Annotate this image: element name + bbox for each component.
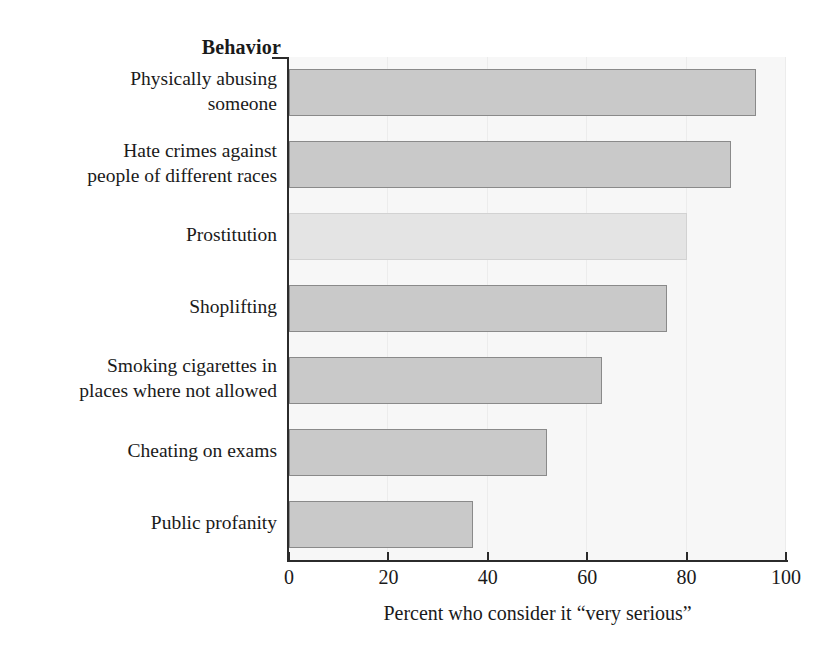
x-tick-60 xyxy=(586,552,588,562)
x-tick-label-40: 40 xyxy=(448,566,528,589)
category-label-line: Smoking cigarettes in xyxy=(0,353,277,378)
bar-chart-figure: Behavior Physically abusingsomeoneHate c… xyxy=(0,0,839,652)
x-tick-80 xyxy=(686,552,688,562)
bar-4 xyxy=(289,357,602,404)
category-label-line: Cheating on exams xyxy=(0,438,277,463)
bar-0 xyxy=(289,69,756,116)
category-axis-header: Behavior xyxy=(0,36,281,59)
bar-6 xyxy=(289,501,473,548)
category-label-line: Shoplifting xyxy=(0,294,277,319)
category-label-line: Prostitution xyxy=(0,222,277,247)
category-label-6: Public profanity xyxy=(0,510,277,535)
bar-2 xyxy=(289,213,687,260)
category-label-line: Public profanity xyxy=(0,510,277,535)
x-axis-line xyxy=(287,560,788,562)
category-label-1: Hate crimes againstpeople of different r… xyxy=(0,138,277,188)
x-tick-0 xyxy=(288,552,290,562)
category-label-3: Shoplifting xyxy=(0,294,277,319)
bar-1 xyxy=(289,141,731,188)
x-axis-title: Percent who consider it “very serious” xyxy=(289,602,786,625)
x-tick-100 xyxy=(785,552,787,562)
bar-3 xyxy=(289,285,667,332)
x-tick-label-100: 100 xyxy=(746,566,826,589)
x-tick-label-60: 60 xyxy=(547,566,627,589)
category-label-5: Cheating on exams xyxy=(0,438,277,463)
category-label-line: Hate crimes against xyxy=(0,138,277,163)
gridline xyxy=(785,57,786,560)
x-tick-label-20: 20 xyxy=(348,566,428,589)
x-tick-20 xyxy=(387,552,389,562)
category-label-2: Prostitution xyxy=(0,222,277,247)
x-tick-label-80: 80 xyxy=(647,566,727,589)
x-tick-label-0: 0 xyxy=(249,566,329,589)
category-label-line: someone xyxy=(0,91,277,116)
category-label-0: Physically abusingsomeone xyxy=(0,66,277,116)
gridline xyxy=(686,57,687,560)
category-label-line: Physically abusing xyxy=(0,66,277,91)
category-label-4: Smoking cigarettes inplaces where not al… xyxy=(0,353,277,403)
bar-5 xyxy=(289,429,547,476)
category-label-line: people of different races xyxy=(0,163,277,188)
category-label-line: places where not allowed xyxy=(0,378,277,403)
x-tick-40 xyxy=(487,552,489,562)
